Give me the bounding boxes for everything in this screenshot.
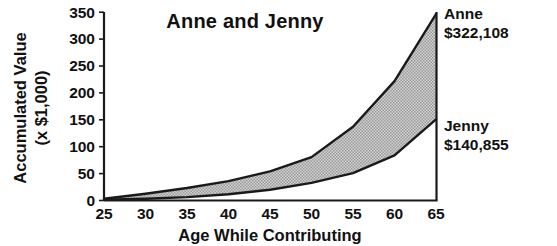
y-tick-label-150: 150 xyxy=(69,111,95,128)
x-tick-label-40: 40 xyxy=(220,205,237,222)
x-tick-label-50: 50 xyxy=(303,205,320,222)
x-tick-label-30: 30 xyxy=(137,205,154,222)
chart-title: Anne and Jenny xyxy=(166,10,324,32)
chart-canvas: 0 50 100 150 200 250 300 350 25 30 35 40… xyxy=(0,0,557,246)
y-axis-title-line1: Accumulated Value xyxy=(11,32,29,183)
y-tick-label-200: 200 xyxy=(69,84,95,101)
anne-label: Anne xyxy=(444,5,483,22)
x-axis-title: Age While Contributing xyxy=(178,226,361,244)
x-tick-label-60: 60 xyxy=(386,205,403,222)
y-tick-label-350: 350 xyxy=(69,4,95,21)
y-tick-label-250: 250 xyxy=(69,57,95,74)
x-tick-label-55: 55 xyxy=(344,205,362,222)
y-axis-title-line2: (x $1,000) xyxy=(32,70,50,145)
jenny-value-label: $140,855 xyxy=(444,136,509,153)
y-tick-label-100: 100 xyxy=(69,138,95,155)
x-tick-label-65: 65 xyxy=(427,205,445,222)
x-tick-label-35: 35 xyxy=(178,205,196,222)
y-tick-label-300: 300 xyxy=(69,30,95,47)
x-tick-labels: 25 30 35 40 45 50 55 60 65 xyxy=(95,205,445,222)
y-tick-label-0: 0 xyxy=(86,192,95,209)
chart-figure: 0 50 100 150 200 250 300 350 25 30 35 40… xyxy=(0,0,557,246)
jenny-label: Jenny xyxy=(444,117,489,134)
anne-value-label: $322,108 xyxy=(444,24,509,41)
y-tick-label-50: 50 xyxy=(78,165,95,182)
x-tick-label-25: 25 xyxy=(95,205,113,222)
x-tick-label-45: 45 xyxy=(261,205,279,222)
